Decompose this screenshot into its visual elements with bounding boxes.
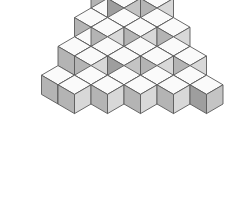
isometric-canvas	[0, 0, 233, 216]
cube-stack-figure	[0, 0, 233, 216]
